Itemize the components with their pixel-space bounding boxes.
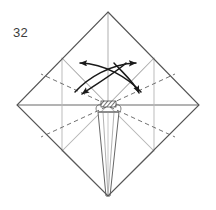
center-hatch-marker [101,101,116,107]
step-number-label: 32 [13,25,28,40]
origami-diagram-svg [0,0,216,210]
hatch-rect [101,101,116,107]
origami-figure: 32 [0,0,216,210]
